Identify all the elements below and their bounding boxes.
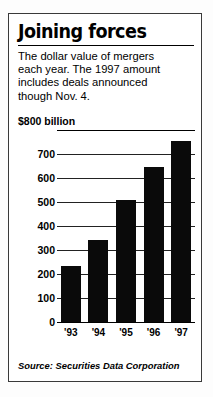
y-axis-tick-label: 500 bbox=[37, 196, 55, 208]
gridline bbox=[57, 130, 195, 131]
x-axis-tick-label: '94 bbox=[85, 327, 111, 338]
chart-figure: Joining forces The dollar value of merge… bbox=[8, 13, 202, 382]
x-axis-tick-label: '96 bbox=[141, 327, 167, 338]
x-axis-baseline bbox=[57, 322, 195, 323]
y-axis-tick-label: 300 bbox=[37, 244, 55, 256]
y-axis-tick-label: 200 bbox=[37, 268, 55, 280]
bar-chart: 0100200300400500600700$800 billion '93'9… bbox=[9, 106, 201, 351]
chart-subtitle: The dollar value of mergers each year. T… bbox=[18, 50, 196, 103]
y-axis-tick-label: 0 bbox=[49, 316, 55, 328]
x-axis-tick-label: '93 bbox=[58, 327, 84, 338]
bar bbox=[116, 200, 136, 322]
y-axis-tick-label: 600 bbox=[37, 172, 55, 184]
page-title: Joining forces bbox=[18, 21, 173, 42]
x-axis-tick-label: '97 bbox=[168, 327, 194, 338]
headline-block: Joining forces bbox=[18, 21, 194, 46]
bar bbox=[61, 266, 81, 322]
page-background: Joining forces The dollar value of merge… bbox=[0, 0, 213, 397]
bar bbox=[88, 240, 108, 322]
x-axis-tick-label: '95 bbox=[113, 327, 139, 338]
subtitle-line-2: each year. The 1997 amount bbox=[18, 63, 196, 76]
y-axis-tick-label: 100 bbox=[37, 292, 55, 304]
subtitle-line-3: includes deals announced bbox=[18, 76, 196, 89]
y-axis-tick-label: 400 bbox=[37, 220, 55, 232]
y-axis-tick-label: $800 billion bbox=[18, 115, 75, 127]
bar bbox=[144, 167, 164, 322]
subtitle-line-4: though Nov. 4. bbox=[18, 90, 196, 103]
bar bbox=[171, 141, 191, 322]
y-axis-tick-label: 700 bbox=[37, 148, 55, 160]
subtitle-line-1: The dollar value of mergers bbox=[18, 50, 196, 63]
source-note: Source: Securities Data Corporation bbox=[18, 360, 180, 371]
title-divider bbox=[18, 45, 194, 46]
